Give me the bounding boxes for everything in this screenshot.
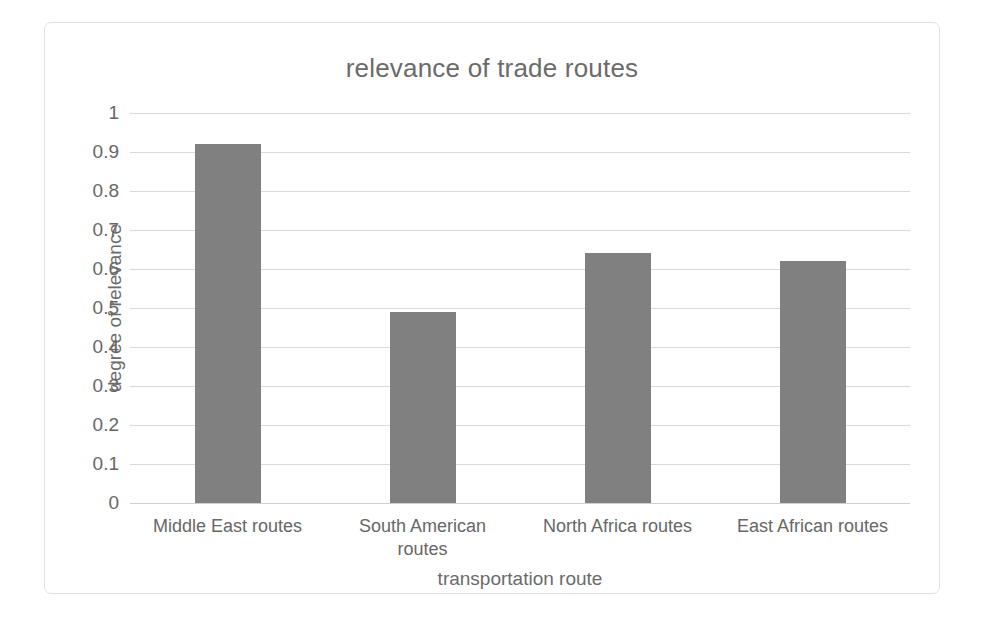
y-axis-tick-label: 0.9 (93, 141, 119, 163)
bar-group: East African routes (715, 113, 910, 503)
bar-group: Middle East routes (130, 113, 325, 503)
chart-frame: relevance of trade routes degree of rele… (44, 22, 940, 594)
y-axis-tick-label: 0.2 (93, 414, 119, 436)
bar (195, 144, 261, 503)
plot-area: 10.90.80.70.60.50.40.30.20.10 Middle Eas… (130, 113, 910, 503)
y-axis-tick-label: 0.1 (93, 453, 119, 475)
bar (390, 312, 456, 503)
chart-title: relevance of trade routes (45, 53, 939, 84)
y-axis-tick-label: 0.4 (93, 336, 119, 358)
y-axis-tick-label: 0 (108, 492, 119, 514)
y-axis-tick-label: 0.7 (93, 219, 119, 241)
bar-group: North Africa routes (520, 113, 715, 503)
bar (585, 253, 651, 503)
bar-group: South American routes (325, 113, 520, 503)
y-axis-tick-label: 0.3 (93, 375, 119, 397)
y-axis-tick-label: 0.6 (93, 258, 119, 280)
y-axis-tick-label: 1 (108, 102, 119, 124)
y-axis-tick-label: 0.8 (93, 180, 119, 202)
gridline: 0 (130, 503, 910, 504)
y-axis-tick-label: 0.5 (93, 297, 119, 319)
x-axis-tick-label: North Africa routes (528, 515, 708, 538)
bars-layer: Middle East routesSouth American routesN… (130, 113, 910, 503)
x-axis-tick-label: Middle East routes (138, 515, 318, 538)
x-axis-title: transportation route (130, 568, 910, 590)
x-axis-tick-label: East African routes (723, 515, 903, 538)
x-axis-tick-label: South American routes (333, 515, 513, 560)
bar (780, 261, 846, 503)
